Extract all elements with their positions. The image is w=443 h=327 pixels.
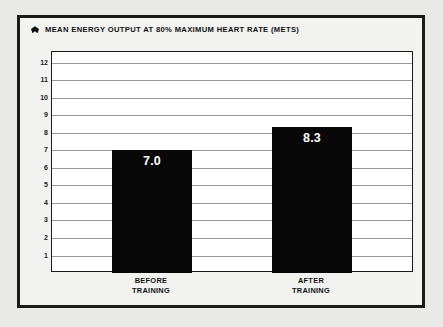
gridline (52, 80, 412, 81)
y-tick-label: 7 (32, 146, 48, 153)
y-tick-label: 10 (32, 93, 48, 100)
plot-area: 7.08.3 (51, 51, 413, 272)
gridline (52, 133, 412, 134)
chart-title: MEAN ENERGY OUTPUT AT 80% MAXIMUM HEART … (31, 26, 299, 34)
gridline (52, 115, 412, 116)
y-tick-label: 4 (32, 198, 48, 205)
y-tick-label: 6 (32, 163, 48, 170)
gridline (52, 168, 412, 169)
gridline (52, 220, 412, 221)
gridline (52, 150, 412, 151)
gridline (52, 98, 412, 99)
bar-value-label: 8.3 (303, 132, 321, 145)
y-tick-label: 2 (32, 233, 48, 240)
bar-value-label: 7.0 (143, 155, 161, 168)
gridline (52, 63, 412, 64)
gridline (52, 256, 412, 257)
x-category-label: BEFORETRAINING (101, 276, 201, 296)
bar: 8.3 (272, 127, 352, 273)
x-category-label-line: TRAINING (101, 286, 201, 296)
chart-title-text: MEAN ENERGY OUTPUT AT 80% MAXIMUM HEART … (45, 26, 299, 34)
y-tick-label: 8 (32, 128, 48, 135)
y-axis-tick-labels: 123456789101112 (29, 51, 48, 272)
x-category-label-line: BEFORE (101, 276, 201, 286)
y-tick-label: 1 (32, 251, 48, 258)
diamond-bullet-icon (31, 26, 39, 33)
gridline (52, 185, 412, 186)
x-category-label: AFTERTRAINING (261, 276, 361, 296)
y-tick-label: 5 (32, 181, 48, 188)
x-category-label-line: AFTER (261, 276, 361, 286)
y-tick-label: 9 (32, 111, 48, 118)
gridline (52, 238, 412, 239)
x-category-label-line: TRAINING (261, 286, 361, 296)
y-tick-label: 12 (32, 58, 48, 65)
bar: 7.0 (112, 150, 192, 273)
y-tick-label: 3 (32, 216, 48, 223)
y-tick-label: 11 (32, 76, 48, 83)
gridline (52, 203, 412, 204)
figure-panel: MEAN ENERGY OUTPUT AT 80% MAXIMUM HEART … (17, 15, 425, 308)
